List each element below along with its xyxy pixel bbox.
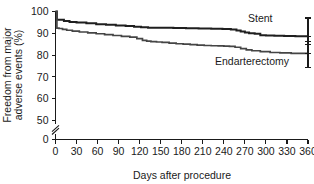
y-tick-label-50: 50 xyxy=(37,114,49,126)
y-tick-label-90: 90 xyxy=(37,27,49,39)
axis-tick-marks xyxy=(52,12,309,144)
x-tick-label-60: 60 xyxy=(92,145,104,157)
error-bar-endarterectomy xyxy=(305,42,311,68)
y-tick-label-100: 100 xyxy=(31,5,49,17)
chart-figure: 05060708090100 0306090120150180210240270… xyxy=(0,0,314,184)
x-tick-label-90: 90 xyxy=(113,145,125,157)
x-axis-tick-labels: 0306090120150180210240270300330360 xyxy=(53,145,314,157)
error-bar-stent xyxy=(305,18,311,44)
x-tick-label-240: 240 xyxy=(215,145,233,157)
y-axis-tick-labels: 05060708090100 xyxy=(31,5,49,145)
y-tick-label-60: 60 xyxy=(37,92,49,104)
y-tick-label-0: 0 xyxy=(43,133,49,145)
x-tick-label-300: 300 xyxy=(257,145,275,157)
x-axis-title: Days after procedure xyxy=(133,169,231,181)
x-tick-label-150: 150 xyxy=(152,145,170,157)
x-tick-label-330: 330 xyxy=(278,145,296,157)
x-tick-label-270: 270 xyxy=(236,145,254,157)
y-tick-label-80: 80 xyxy=(37,49,49,61)
x-tick-label-360: 360 xyxy=(299,145,314,157)
x-tick-label-120: 120 xyxy=(131,145,149,157)
y-axis-title-line2: adverse events (%) xyxy=(12,30,24,120)
series-label-endarterectomy: Endarterectomy xyxy=(215,55,290,67)
chart-canvas: 05060708090100 0306090120150180210240270… xyxy=(0,0,314,184)
series-label-stent: Stent xyxy=(248,12,273,24)
y-axis-break-icon xyxy=(52,125,59,134)
x-tick-label-210: 210 xyxy=(194,145,212,157)
x-tick-label-0: 0 xyxy=(53,145,59,157)
x-tick-label-30: 30 xyxy=(71,145,83,157)
y-tick-label-70: 70 xyxy=(37,71,49,83)
x-tick-label-180: 180 xyxy=(173,145,191,157)
